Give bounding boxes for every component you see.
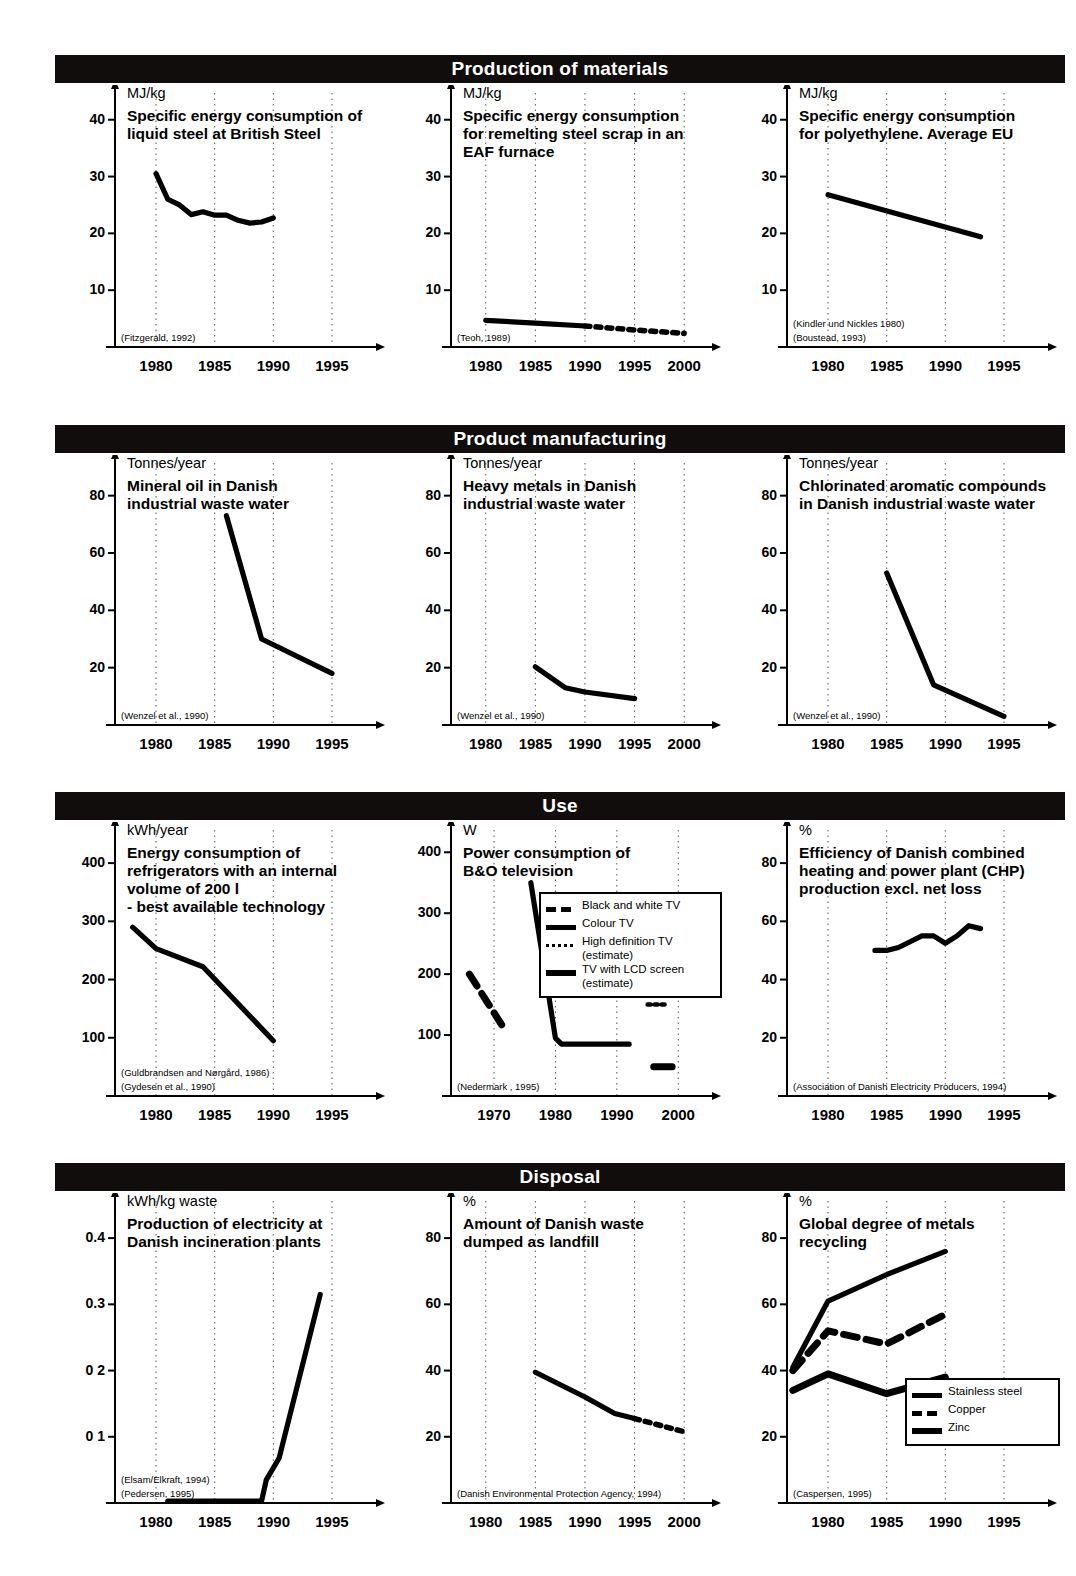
y-axis-tick-label: 20 <box>729 224 777 240</box>
chart-source-citation: (Wenzel et al., 1990) <box>793 709 1061 723</box>
x-axis-tick-label: 1995 <box>305 735 359 752</box>
chart-title: Specific energy consumption of liquid st… <box>127 107 389 143</box>
chart-source-citation: (Wenzel et al., 1990) <box>457 709 725 723</box>
chart-source-citation: (Association of Danish Electricity Produ… <box>793 1080 1061 1094</box>
chart-title: Efficiency of Danish combined heating an… <box>799 844 1061 898</box>
y-axis-tick-label: 40 <box>57 601 105 617</box>
legend-key-dash-icon <box>912 1406 942 1420</box>
chart-title: Specific energy consumption for polyethy… <box>799 107 1061 143</box>
axis-unit-label: MJ/kg <box>799 85 838 101</box>
y-axis-tick-label: 60 <box>729 1295 777 1311</box>
y-axis-tick-label: 80 <box>57 487 105 503</box>
x-axis-tick-label: 1980 <box>459 735 513 752</box>
y-axis-tick-label: 80 <box>729 1229 777 1245</box>
chart-source-citation: (Teoh, 1989) <box>457 331 725 345</box>
x-axis-tick-label: 1990 <box>558 357 612 374</box>
x-axis-tick-label: 1980 <box>528 1106 582 1123</box>
section-title-manufacturing: Product manufacturing <box>55 425 1065 453</box>
y-axis-tick-label: 200 <box>393 965 441 981</box>
series-measured <box>486 320 585 326</box>
x-axis-tick-label: 1995 <box>305 1513 359 1530</box>
y-axis-tick-label: 200 <box>57 971 105 987</box>
chart-source-citation: (Kindler und Nickles 1980) (Boustead, 19… <box>793 317 1061 345</box>
chart-title: Specific energy consumption for remeltin… <box>463 107 725 161</box>
x-axis-tick-label: 1990 <box>246 357 300 374</box>
y-axis-tick-label: 80 <box>393 1229 441 1245</box>
y-axis-tick-label: 30 <box>57 168 105 184</box>
y-axis-tick-label: 20 <box>729 1029 777 1045</box>
x-axis-tick-label: 1980 <box>801 735 855 752</box>
y-axis-tick-label: 80 <box>393 487 441 503</box>
x-axis-tick-label: 1990 <box>590 1106 644 1123</box>
y-axis-tick-label: 40 <box>57 111 105 127</box>
x-axis-tick-label: 1985 <box>508 1513 562 1530</box>
y-axis-tick-label: 40 <box>729 971 777 987</box>
series-electricity-production <box>168 1294 320 1501</box>
legend-key-solid-icon <box>912 1388 942 1402</box>
x-axis-tick-label: 1995 <box>305 357 359 374</box>
x-axis-tick-label: 1985 <box>188 1513 242 1530</box>
y-axis-tick-label: 0.4 <box>57 1229 105 1245</box>
section-use: Use kWh/yearEnergy consumption of refrig… <box>55 792 1065 1147</box>
y-axis-tick-label: 300 <box>393 904 441 920</box>
x-axis-tick-label: 1995 <box>608 1513 662 1530</box>
x-axis-tick-label: 1995 <box>608 357 662 374</box>
y-axis-tick-label: 60 <box>57 544 105 560</box>
x-axis-tick-label: 1980 <box>801 357 855 374</box>
legend-key-thick-icon <box>912 1424 942 1438</box>
x-axis-tick-label: 1990 <box>918 357 972 374</box>
chart-source-citation: (Fitzgerald, 1992) <box>121 331 389 345</box>
section-product-manufacturing: Product manufacturing Tonnes/yearMineral… <box>55 425 1065 775</box>
series-mineral-oil <box>226 516 332 674</box>
chart-source-citation: (Elsam/Elkraft, 1994) (Pedersen, 1995) <box>121 1473 389 1501</box>
x-axis-tick-label: 1990 <box>246 1106 300 1123</box>
y-axis-tick-label: 20 <box>393 1428 441 1444</box>
x-axis-tick-label: 2000 <box>657 357 711 374</box>
y-axis-tick-label: 0.3 <box>57 1295 105 1311</box>
legend-key-dash-icon <box>546 902 576 916</box>
x-axis-tick-label: 2000 <box>657 735 711 752</box>
axis-unit-label: W <box>463 822 477 838</box>
y-axis-tick-label: 100 <box>393 1026 441 1042</box>
legend-item-label: High definition TV (estimate) <box>582 935 673 962</box>
y-axis-tick-label: 80 <box>729 487 777 503</box>
legend-item-label: Stainless steel <box>948 1385 1022 1399</box>
y-axis-tick-label: 40 <box>393 111 441 127</box>
chart-title: Chlorinated aromatic compounds in Danish… <box>799 477 1061 513</box>
x-axis-tick-label: 1990 <box>918 735 972 752</box>
y-axis-tick-label: 30 <box>393 168 441 184</box>
chart-source-citation: (Wenzel et al., 1990) <box>121 709 389 723</box>
x-axis-tick-label: 1990 <box>246 1513 300 1530</box>
y-axis-tick-label: 60 <box>393 544 441 560</box>
x-axis-tick-label: 1980 <box>459 1513 513 1530</box>
legend-key-dot-icon <box>546 938 576 952</box>
x-axis-tick-label: 1985 <box>188 735 242 752</box>
legend-item-label: Black and white TV <box>582 899 680 913</box>
x-axis-tick-label: 1985 <box>860 1106 914 1123</box>
x-axis-tick-label: 2000 <box>651 1106 705 1123</box>
y-axis-tick-label: 20 <box>729 659 777 675</box>
y-axis-tick-label: 300 <box>57 912 105 928</box>
y-axis-tick-label: 40 <box>393 1362 441 1378</box>
axis-unit-label: % <box>799 1193 812 1209</box>
y-axis-tick-label: 0 2 <box>57 1362 105 1378</box>
legend-item: TV with LCD screen (estimate) <box>546 963 714 990</box>
y-axis-tick-label: 80 <box>729 854 777 870</box>
axis-unit-label: kWh/year <box>127 822 188 838</box>
y-axis-tick-label: 400 <box>393 843 441 859</box>
x-axis-tick-label: 1985 <box>188 1106 242 1123</box>
x-axis-tick-label: 1980 <box>129 1513 183 1530</box>
series-landfill-projection <box>635 1419 685 1432</box>
x-axis-tick-label: 1990 <box>246 735 300 752</box>
y-axis-tick-label: 60 <box>393 1295 441 1311</box>
x-axis-tick-label: 1985 <box>860 1513 914 1530</box>
figure-page: Production of materials MJ/kgSpecific en… <box>0 0 1076 1576</box>
chart-title: Heavy metals in Danish industrial waste … <box>463 477 725 513</box>
x-axis-tick-label: 1985 <box>860 357 914 374</box>
legend-item: Colour TV <box>546 917 714 934</box>
section-production-of-materials: Production of materials MJ/kgSpecific en… <box>55 55 1065 400</box>
axis-unit-label: MJ/kg <box>127 85 166 101</box>
x-axis-tick-label: 1995 <box>977 1513 1031 1530</box>
x-axis-tick-label: 1985 <box>508 735 562 752</box>
chart-title: Global degree of metals recycling <box>799 1215 1061 1251</box>
